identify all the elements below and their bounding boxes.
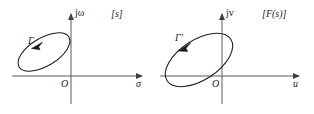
s-plane-vertical-axis-label: jω <box>75 8 84 18</box>
nyquist-mapping-figure: jω [s] σ O Γ jv [F(s)] u O Γ' <box>0 0 314 114</box>
s-plane-contour-label: Γ <box>28 36 34 46</box>
F-plane-label: [F(s)] <box>262 9 286 19</box>
F-plane-contour-label: Γ' <box>175 33 183 43</box>
F-plane-horizontal-axis-label: u <box>293 79 298 89</box>
F-plane-vertical-axis-label: jv <box>226 8 234 18</box>
s-plane-horizontal-axis-label: σ <box>136 79 141 89</box>
s-plane-origin-label: O <box>61 79 68 89</box>
s-plane-contour-gamma <box>12 25 76 79</box>
F-plane-contour-gamma-prime <box>156 23 242 98</box>
s-plane-label: [s] <box>111 9 123 19</box>
F-plane-origin-label: O <box>212 79 219 89</box>
F-plane-contour-direction-arrow <box>179 43 191 51</box>
